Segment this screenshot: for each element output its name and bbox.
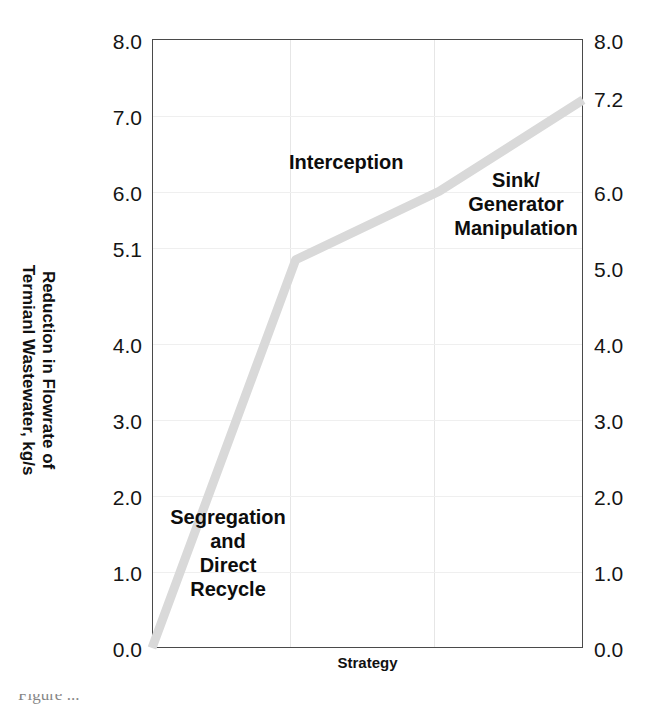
x-axis-title: Strategy bbox=[152, 654, 583, 671]
left-axis-tick-labels: 8.0 7.0 6.0 5.1 4.0 3.0 2.0 1.0 0.0 bbox=[78, 0, 142, 707]
y-axis-title: Reduction in Flowrate of Termianl Wastew… bbox=[18, 180, 58, 560]
left-tick-7-0: 7.0 bbox=[113, 107, 142, 128]
right-tick-1-0: 1.0 bbox=[594, 563, 623, 584]
left-tick-3-0: 3.0 bbox=[113, 411, 142, 432]
left-tick-4-0: 4.0 bbox=[113, 335, 142, 356]
right-tick-0-0: 0.0 bbox=[594, 639, 623, 660]
left-tick-0-0: 0.0 bbox=[113, 639, 142, 660]
annotation-sink-generator-manipulation: Sink/ Generator Manipulation bbox=[425, 168, 607, 240]
right-tick-2-0: 2.0 bbox=[594, 487, 623, 508]
left-tick-6-0: 6.0 bbox=[113, 183, 142, 204]
figure-container: Reduction in Flowrate of Termianl Wastew… bbox=[0, 0, 655, 707]
figure-caption-clipped: Figure ... bbox=[18, 694, 438, 707]
right-tick-4-0: 4.0 bbox=[594, 335, 623, 356]
right-axis-tick-labels: 8.0 7.2 6.0 5.0 4.0 3.0 2.0 1.0 0.0 bbox=[594, 0, 655, 707]
right-tick-3-0: 3.0 bbox=[594, 411, 623, 432]
gridline-horizontal-7-0 bbox=[153, 116, 582, 117]
figure-caption-text: Figure ... bbox=[18, 694, 438, 705]
gridline-horizontal-5-1 bbox=[153, 248, 582, 249]
gridline-horizontal-4-0 bbox=[153, 344, 582, 345]
left-tick-8-0: 8.0 bbox=[113, 31, 142, 52]
annotation-interception: Interception bbox=[289, 150, 403, 174]
gridline-horizontal-2-0 bbox=[153, 496, 582, 497]
right-tick-7-2: 7.2 bbox=[594, 89, 623, 110]
right-tick-5-0: 5.0 bbox=[594, 259, 623, 280]
left-tick-5-1: 5.1 bbox=[113, 239, 142, 260]
gridline-horizontal-3-0 bbox=[153, 420, 582, 421]
annotation-segregation-and-direct-recycle: Segregation and Direct Recycle bbox=[135, 505, 321, 601]
right-tick-8-0: 8.0 bbox=[594, 31, 623, 52]
